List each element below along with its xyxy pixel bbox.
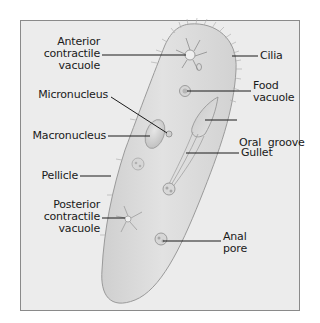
label-line: pore: [223, 243, 247, 255]
label-line: Macronucleus: [33, 130, 106, 142]
label-line: vacuole: [44, 60, 100, 72]
forming-food-vacuole-shape: [163, 183, 175, 195]
anal-pore-shape: [155, 233, 167, 245]
label-line: Cilia: [260, 50, 283, 62]
label-pellicle: Pellicle: [42, 170, 78, 182]
label-gullet: Gullet: [241, 147, 273, 159]
label-micronucleus: Micronucleus: [38, 89, 108, 101]
food-vacuole-secondary-shape: [132, 158, 144, 170]
label-line: vacuole: [253, 92, 294, 104]
label-posterior-contractile-vacuole: Posterior contractile vacuole: [44, 199, 100, 235]
label-macronucleus: Macronucleus: [33, 130, 106, 142]
label-line: Gullet: [241, 147, 273, 159]
label-line: Pellicle: [42, 170, 78, 182]
label-line: vacuole: [44, 223, 100, 235]
label-anterior-contractile-vacuole: Anterior contractile vacuole: [44, 36, 100, 72]
label-anal-pore: Anal pore: [223, 231, 247, 255]
micronucleus-shape: [166, 131, 172, 137]
label-cilia: Cilia: [260, 50, 283, 62]
paramecium-body: [100, 18, 242, 303]
label-food-vacuole: Food vacuole: [253, 80, 294, 104]
label-line: Micronucleus: [38, 89, 108, 101]
